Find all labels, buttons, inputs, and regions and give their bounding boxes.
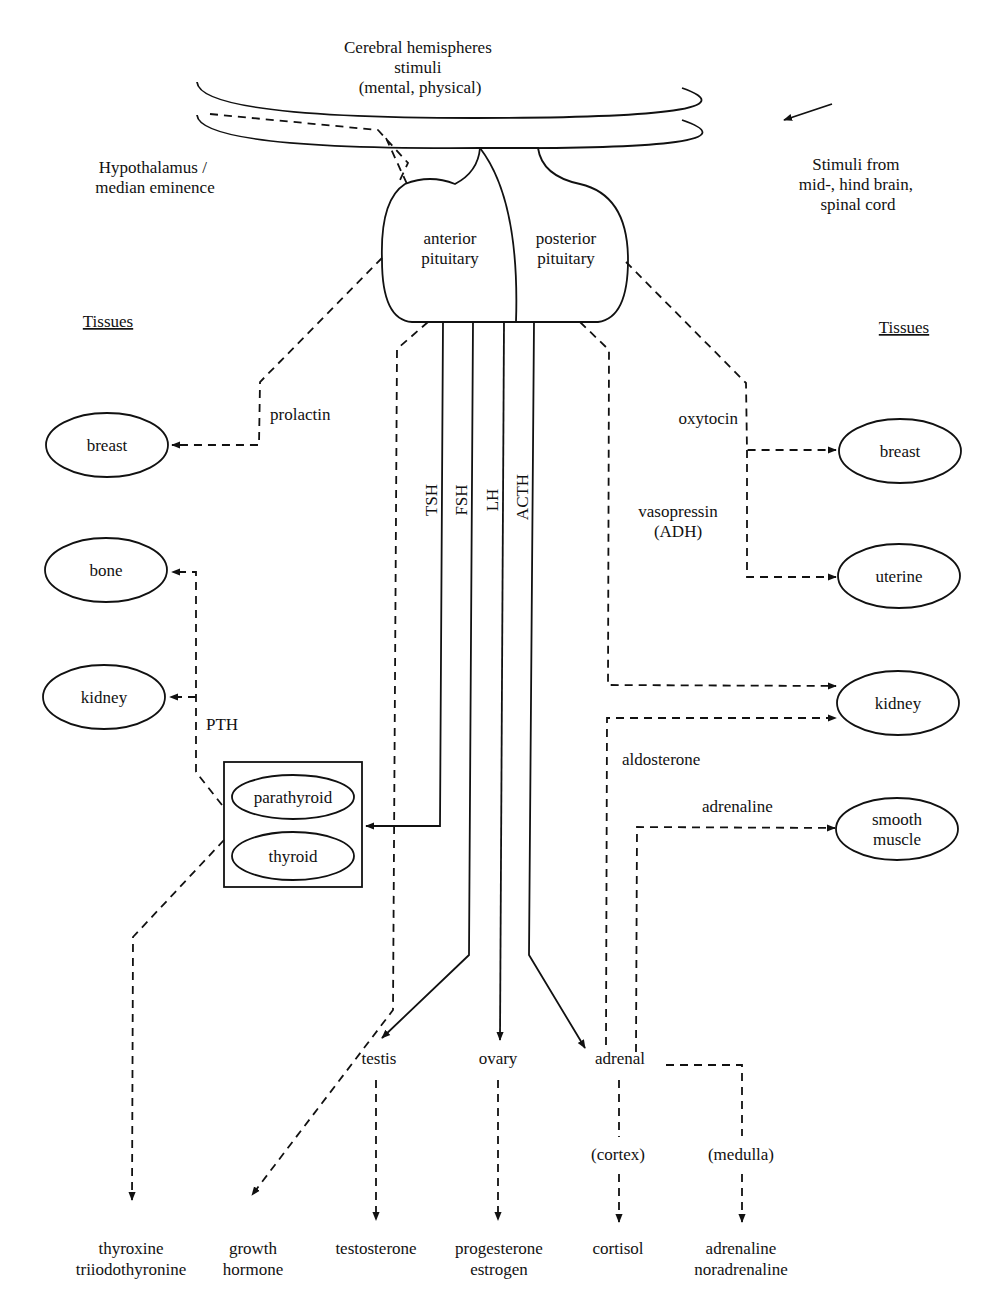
lh-line (500, 322, 504, 1040)
vasopressin-label: vasopressin(ADH) (638, 502, 718, 541)
fsh-line (382, 322, 473, 1038)
pth-label: PTH (206, 715, 238, 734)
left-breast-label: breast (87, 436, 128, 455)
adrenaline-smooth-muscle-arrow (636, 827, 835, 1052)
testosterone-output-label: testosterone (335, 1239, 416, 1258)
prolactin-label: prolactin (270, 405, 331, 424)
acth-label: ACTH (513, 474, 532, 520)
left-kidney-label: kidney (81, 688, 128, 707)
acth-line (529, 322, 585, 1048)
thyroxine-arrow (132, 840, 224, 1200)
ovary-label: ovary (479, 1049, 518, 1068)
cortisol-output-label: cortisol (593, 1239, 644, 1258)
adrenal-medulla-line (666, 1065, 742, 1136)
tsh-line (366, 322, 443, 826)
oxytocin-uterine-arrow (747, 450, 836, 577)
adrenaline-label: adrenaline (702, 797, 773, 816)
thyroid-label: thyroid (268, 847, 318, 866)
pth-bone-arrow (172, 572, 222, 805)
right-kidney-label: kidney (875, 694, 922, 713)
smooth-muscle-label: smoothmuscle (872, 810, 923, 849)
tissues-heading-left: Tissues (83, 312, 133, 331)
cerebral-hemispheres-label: Cerebral hemispheres stimuli (mental, ph… (344, 38, 496, 97)
cortex-label: (cortex) (591, 1145, 645, 1164)
lh-label: LH (483, 489, 502, 512)
posterior-pituitary-label: posteriorpituitary (536, 229, 597, 268)
fsh-label: FSH (452, 484, 471, 515)
oxytocin-label: oxytocin (679, 409, 739, 428)
growth-hormone-arrow (252, 322, 428, 1195)
thyroxine-output-label: thyroxinetriiodothyronine (76, 1239, 186, 1279)
right-breast-label: breast (880, 442, 921, 461)
hypothalamus-label: Hypothalamus / median eminence (95, 158, 214, 197)
tsh-label: TSH (422, 484, 441, 516)
growth-hormone-output-label: growthhormone (223, 1239, 283, 1279)
aldosterone-label: aldosterone (622, 750, 700, 769)
medulla-label: (medulla) (708, 1145, 774, 1164)
anterior-pituitary-label: anteriorpituitary (421, 229, 479, 268)
testis-label: testis (362, 1049, 397, 1068)
stimuli-from-label: Stimuli from mid-, hind brain, spinal co… (799, 155, 918, 214)
smooth-muscle-node[interactable] (836, 798, 958, 860)
adrenal-label: adrenal (595, 1049, 645, 1068)
tissues-heading-right: Tissues (879, 318, 929, 337)
endocrine-diagram: anteriorpituitary posteriorpituitary Cer… (0, 0, 1002, 1311)
parathyroid-label: parathyroid (254, 788, 333, 807)
adrenaline-output-label: adrenalinenoradrenaline (694, 1239, 787, 1279)
uterine-label: uterine (875, 567, 922, 586)
stimuli-arrow (784, 104, 832, 120)
progesterone-output-label: progesteroneestrogen (455, 1239, 543, 1279)
bone-label: bone (89, 561, 122, 580)
